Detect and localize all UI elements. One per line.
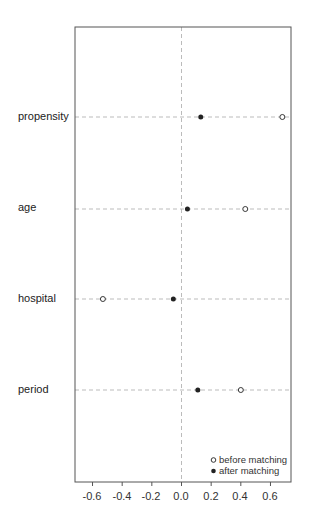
- legend-open-circle-icon: [211, 458, 216, 463]
- before-matching-point-period: [238, 388, 243, 393]
- x-axis-ticks: [93, 482, 271, 486]
- plot-frame: [75, 27, 291, 482]
- row-label-age: age: [18, 201, 36, 213]
- before-matching-point-propensity: [280, 115, 285, 120]
- tick-label: -0.2: [136, 490, 166, 502]
- legend-label-after: after matching: [219, 465, 279, 476]
- tick-label: -0.6: [77, 490, 107, 502]
- after-matching-point-propensity: [198, 115, 203, 120]
- tick-label: -0.4: [107, 490, 137, 502]
- before-matching-point-age: [243, 207, 248, 212]
- tick-label: 0.2: [196, 490, 226, 502]
- row-label-propensity: propensity: [18, 110, 69, 122]
- tick-label: 0.4: [225, 490, 255, 502]
- after-matching-point-hospital: [171, 297, 176, 302]
- row-label-hospital: hospital: [18, 292, 56, 304]
- tick-label: 0.0: [166, 490, 196, 502]
- row-guide-lines: [75, 117, 291, 390]
- tick-label: 0.6: [255, 490, 285, 502]
- row-label-period: period: [18, 383, 49, 395]
- before-matching-point-hospital: [100, 297, 105, 302]
- after-matching-point-period: [195, 388, 200, 393]
- balance-dot-plot: [0, 0, 309, 522]
- legend-filled-circle-icon: [211, 469, 216, 474]
- after-matching-point-age: [185, 207, 190, 212]
- data-points: [100, 115, 284, 393]
- legend-label-before: before matching: [219, 454, 287, 465]
- legend-markers: [211, 458, 216, 474]
